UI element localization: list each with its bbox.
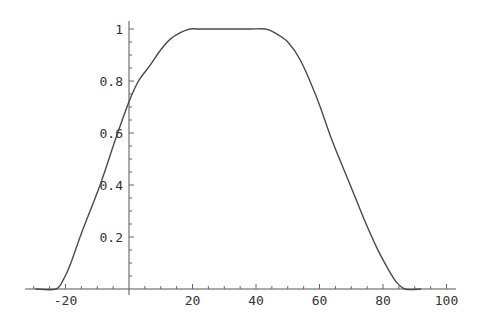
data-curve bbox=[35, 29, 421, 290]
y-tick-label: 1 bbox=[115, 22, 123, 37]
x-tick-label: 20 bbox=[185, 293, 201, 308]
x-tick-label: -20 bbox=[54, 293, 77, 308]
axes bbox=[25, 21, 456, 295]
x-tick-label: 60 bbox=[312, 293, 328, 308]
line-chart: -2020406080100 0.20.40.60.81 bbox=[0, 0, 482, 320]
y-ticks bbox=[129, 29, 134, 276]
y-tick-label: 0.8 bbox=[100, 74, 123, 89]
x-tick-label: 100 bbox=[435, 293, 458, 308]
x-ticks bbox=[34, 284, 447, 289]
y-tick-labels: 0.20.40.60.81 bbox=[100, 22, 124, 245]
x-tick-label: 80 bbox=[375, 293, 391, 308]
x-tick-labels: -2020406080100 bbox=[54, 293, 458, 308]
x-tick-label: 40 bbox=[248, 293, 264, 308]
y-tick-label: 0.2 bbox=[100, 230, 123, 245]
y-tick-label: 0.4 bbox=[100, 178, 124, 193]
